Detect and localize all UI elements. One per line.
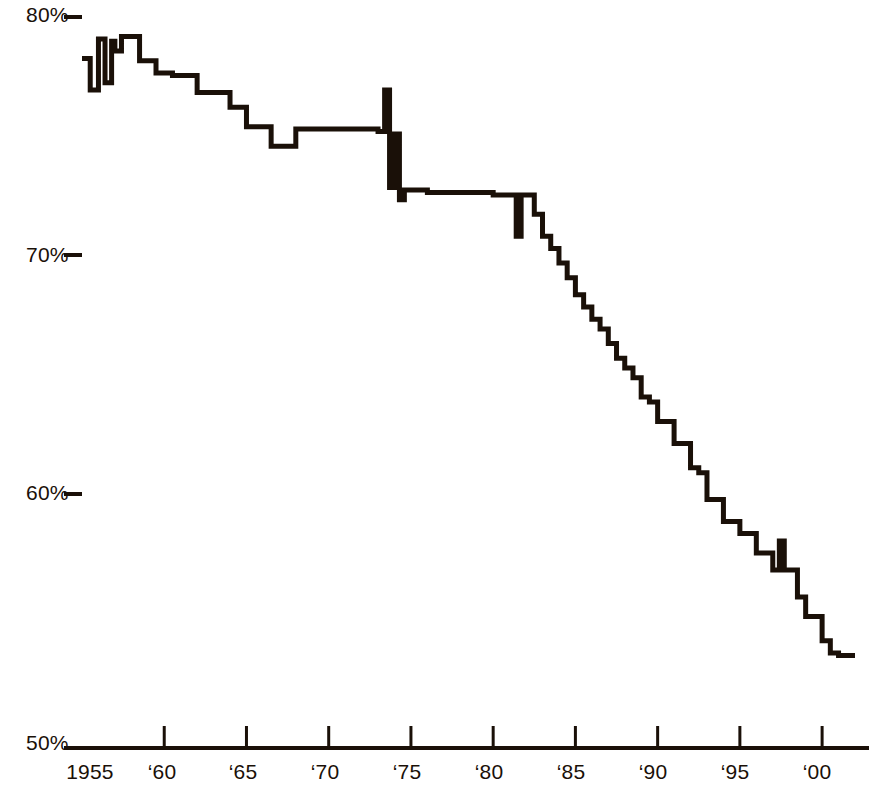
- chart-plot-area: [0, 0, 869, 805]
- x-axis-tick-marks: [82, 726, 822, 748]
- data-series-line: [82, 36, 855, 655]
- y-axis-tick-marks: [64, 17, 82, 748]
- x-axis: [82, 726, 869, 748]
- chart-container: 80% 70% 60% 50% 1955 ‘60 ‘65 ‘70 ‘75 ‘80…: [0, 0, 869, 805]
